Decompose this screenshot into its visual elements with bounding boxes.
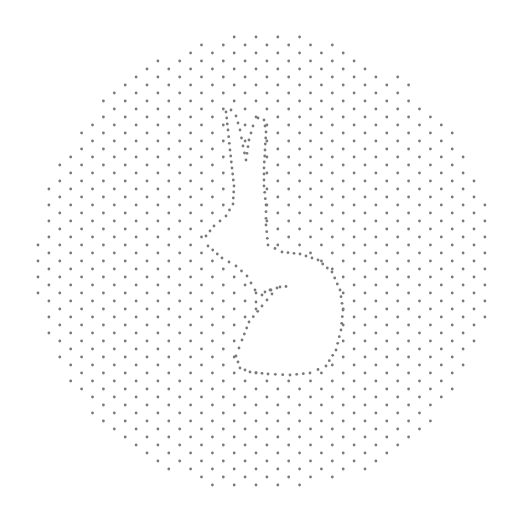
dot: [233, 468, 236, 471]
dot: [102, 164, 105, 167]
dot: [264, 149, 267, 152]
dot: [342, 356, 345, 359]
dot: [353, 108, 356, 111]
dot: [233, 404, 236, 407]
dot: [189, 244, 192, 247]
dot: [364, 132, 367, 135]
dot: [407, 164, 410, 167]
dot: [157, 76, 160, 79]
dot: [320, 180, 323, 183]
dot: [233, 484, 236, 487]
dot: [364, 340, 367, 343]
dot: [451, 244, 454, 247]
dot: [320, 420, 323, 423]
dot: [91, 172, 94, 175]
dot: [211, 148, 214, 151]
dot: [266, 460, 269, 463]
dot: [124, 276, 127, 279]
dot: [364, 388, 367, 391]
dot: [113, 380, 116, 383]
dot: [167, 116, 170, 119]
dot: [418, 284, 421, 287]
dot: [211, 372, 214, 375]
dot: [342, 116, 345, 119]
dot: [473, 276, 476, 279]
dot: [135, 204, 138, 207]
dot: [135, 108, 138, 111]
dot: [331, 124, 334, 127]
dot: [396, 284, 399, 287]
dot: [320, 196, 323, 199]
dot: [309, 76, 312, 79]
dot: [189, 340, 192, 343]
dot: [91, 364, 94, 367]
dot: [37, 260, 40, 263]
dot: [320, 100, 323, 103]
dot: [209, 230, 212, 233]
dot: [91, 332, 94, 335]
dot: [80, 292, 83, 295]
dot: [276, 420, 279, 423]
dot: [462, 252, 465, 255]
dot: [473, 292, 476, 295]
dot: [113, 428, 116, 431]
dot: [276, 388, 279, 391]
dot: [167, 308, 170, 311]
dot: [266, 396, 269, 399]
dot: [287, 108, 290, 111]
dot: [124, 148, 127, 151]
dot: [266, 92, 269, 95]
dot: [276, 180, 279, 183]
dot: [276, 84, 279, 87]
dot: [342, 228, 345, 231]
dot: [331, 204, 334, 207]
dot: [261, 294, 264, 297]
dot: [484, 220, 487, 223]
dot: [331, 271, 334, 274]
dot: [266, 44, 269, 47]
dot: [298, 116, 301, 119]
dot: [232, 203, 235, 206]
dot: [484, 268, 487, 271]
dot: [385, 84, 388, 87]
dot: [451, 276, 454, 279]
dot: [353, 204, 356, 207]
dot: [407, 404, 410, 407]
dot: [146, 324, 149, 327]
dot: [274, 373, 277, 376]
dot: [255, 468, 258, 471]
dot: [396, 428, 399, 431]
dot: [385, 452, 388, 455]
dot: [279, 286, 282, 289]
dot: [375, 124, 378, 127]
dot: [200, 428, 203, 431]
dot: [264, 137, 267, 140]
dot: [276, 52, 279, 55]
dot: [375, 268, 378, 271]
dot: [342, 420, 345, 423]
dot: [298, 436, 301, 439]
dot: [309, 108, 312, 111]
dot: [473, 196, 476, 199]
dot: [167, 212, 170, 215]
dot: [189, 196, 192, 199]
dot: [418, 428, 421, 431]
dot: [298, 180, 301, 183]
dot: [287, 124, 290, 127]
dot: [375, 140, 378, 143]
dot: [80, 244, 83, 247]
dot: [102, 148, 105, 151]
dot: [298, 212, 301, 215]
dot: [407, 420, 410, 423]
dot: [473, 340, 476, 343]
dot: [167, 228, 170, 231]
dot: [396, 124, 399, 127]
dot: [157, 444, 160, 447]
dot: [58, 356, 61, 359]
dot: [102, 228, 105, 231]
dot: [255, 36, 258, 39]
dot: [211, 276, 214, 279]
dot: [157, 396, 160, 399]
dot: [254, 289, 257, 292]
dot: [124, 164, 127, 167]
